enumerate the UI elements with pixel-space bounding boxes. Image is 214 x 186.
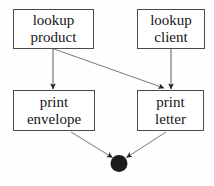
node-lookup-product-line1: lookup <box>33 12 75 29</box>
edge-print-letter-to-final <box>127 132 167 158</box>
node-print-envelope-line2: envelope <box>27 111 81 128</box>
node-lookup-client[interactable]: lookup client <box>137 9 205 49</box>
node-lookup-product[interactable]: lookup product <box>13 9 94 49</box>
edge-lookup-product-to-print-letter <box>54 49 164 88</box>
node-print-envelope-line1: print <box>40 94 68 111</box>
node-print-letter[interactable]: print letter <box>137 90 204 131</box>
node-lookup-client-line1: lookup <box>150 12 192 29</box>
diagram-canvas: lookup product lookup client print envel… <box>0 0 214 186</box>
node-print-envelope[interactable]: print envelope <box>13 90 95 131</box>
edge-print-envelope-to-final <box>71 132 113 158</box>
final-node <box>111 155 128 172</box>
node-lookup-product-line2: product <box>31 29 77 46</box>
node-print-letter-line2: letter <box>155 111 186 128</box>
node-print-letter-line1: print <box>156 94 184 111</box>
node-lookup-client-line2: client <box>154 29 187 46</box>
